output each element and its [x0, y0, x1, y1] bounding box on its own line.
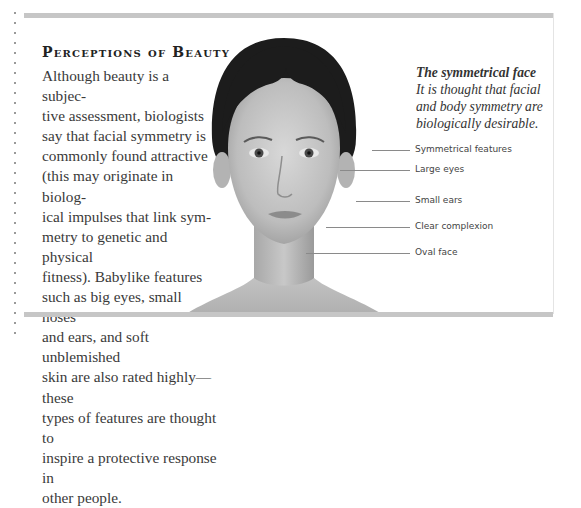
annotation-small-ears: Small ears [415, 195, 462, 205]
leader-line-small-ears [356, 201, 410, 202]
leader-line-large-eyes [340, 170, 410, 171]
annotation-large-eyes: Large eyes [415, 164, 464, 174]
leader-line-oval-face [306, 253, 410, 254]
sidebar-caption: The symmetrical face It is thought that … [416, 64, 556, 132]
leader-line-symmetrical [372, 150, 410, 151]
frame-bottom-bar [24, 312, 553, 317]
annotation-oval-face: Oval face [415, 247, 457, 257]
page-edge-dots [14, 8, 16, 338]
annotation-symmetrical-features: Symmetrical features [415, 144, 512, 154]
sidebar-heading: The symmetrical face [416, 64, 556, 81]
portrait-image [186, 38, 382, 314]
frame-top-bar [24, 13, 553, 18]
annotation-clear-complexion: Clear complexion [415, 221, 493, 231]
sidebar-caption-text: It is thought that facial and body symme… [416, 81, 556, 132]
leader-line-clear-complexion [326, 227, 410, 228]
